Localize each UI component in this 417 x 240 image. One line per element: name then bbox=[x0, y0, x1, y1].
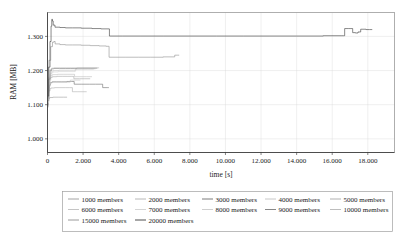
legend-label: 6000 members bbox=[82, 206, 124, 214]
series-line bbox=[48, 80, 81, 105]
x-axis-tick-labels: 02.0004.0006.0008.00010.00012.00014.0001… bbox=[46, 157, 378, 165]
series-line bbox=[48, 81, 109, 104]
x-tick-label: 6.000 bbox=[146, 157, 162, 165]
legend-label: 5000 members bbox=[344, 196, 386, 204]
series-line bbox=[48, 97, 68, 107]
x-tick-label: 12.000 bbox=[251, 157, 271, 165]
legend-label: 3000 members bbox=[216, 196, 258, 204]
legend-label: 1000 members bbox=[82, 196, 124, 204]
series-line bbox=[48, 42, 180, 98]
y-tick-label: 1.300 bbox=[27, 33, 43, 41]
y-axis-tick-labels: 1.0001.1001.2001.300 bbox=[27, 33, 43, 143]
legend-label: 15000 members bbox=[82, 217, 127, 225]
x-axis-title: time [s] bbox=[209, 170, 232, 179]
legend-label: 2000 members bbox=[149, 196, 191, 204]
y-tick-label: 1.200 bbox=[27, 67, 43, 75]
gridlines bbox=[48, 13, 395, 153]
legend-label: 9000 members bbox=[279, 206, 321, 214]
legend-label: 8000 members bbox=[216, 206, 258, 214]
legend-label: 7000 members bbox=[149, 206, 191, 214]
x-tick-label: 8.000 bbox=[182, 157, 198, 165]
chart-page: 02.0004.0006.0008.00010.00012.00014.0001… bbox=[0, 0, 417, 240]
ram-usage-line-chart: 02.0004.0006.0008.00010.00012.00014.0001… bbox=[0, 0, 417, 240]
x-tick-label: 10.000 bbox=[216, 157, 236, 165]
legend-label: 20000 members bbox=[149, 217, 194, 225]
x-tick-label: 16.000 bbox=[323, 157, 343, 165]
y-tick-label: 1.000 bbox=[27, 135, 43, 143]
x-tick-label: 2.000 bbox=[75, 157, 91, 165]
series-lines bbox=[48, 19, 373, 107]
x-tick-label: 18.000 bbox=[358, 157, 378, 165]
x-tick-label: 0 bbox=[46, 157, 50, 165]
legend-label: 4000 members bbox=[279, 196, 321, 204]
series-line bbox=[48, 76, 91, 104]
x-tick-label: 4.000 bbox=[111, 157, 127, 165]
plot-frame bbox=[48, 13, 395, 153]
series-line bbox=[48, 19, 373, 96]
y-axis-title: RAM [MB] bbox=[9, 64, 18, 100]
axis-ticks bbox=[45, 13, 395, 156]
x-tick-label: 14.000 bbox=[287, 157, 307, 165]
legend-label: 10000 members bbox=[344, 206, 389, 214]
series-line bbox=[48, 68, 100, 100]
chart-canvas: 02.0004.0006.0008.00010.00012.00014.0001… bbox=[0, 0, 417, 240]
y-tick-label: 1.100 bbox=[27, 101, 43, 109]
